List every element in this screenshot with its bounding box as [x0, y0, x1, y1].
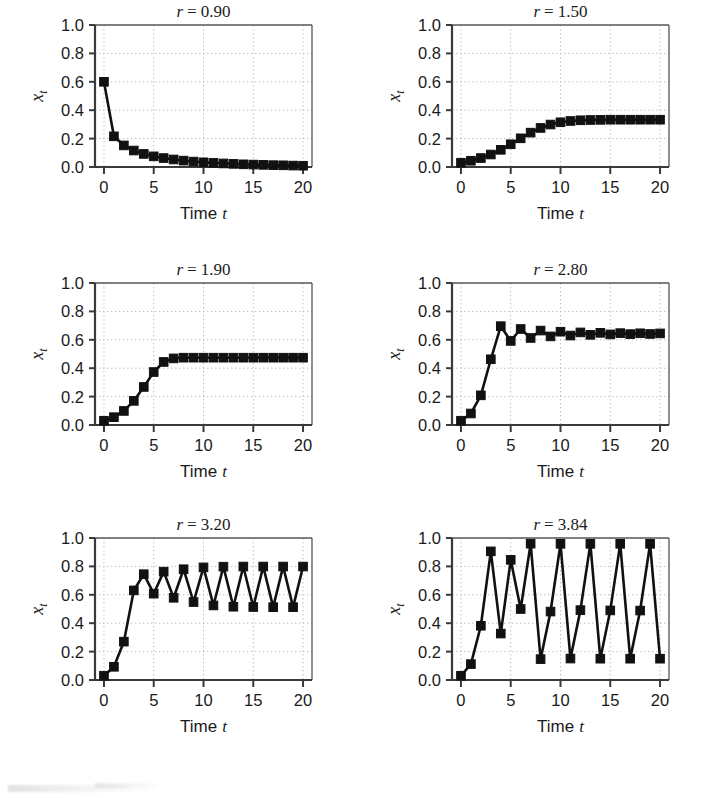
x-axis-label-text: Time: [537, 462, 574, 481]
data-point-marker: [457, 671, 466, 680]
chart-svg: r= 2.800.00.20.40.60.81.005101520Timetxt: [357, 258, 714, 513]
data-point-marker: [586, 116, 595, 125]
data-point-marker: [259, 562, 268, 571]
data-point-marker: [289, 353, 298, 362]
y-tick-label: 0.4: [418, 359, 441, 377]
x-axis-label: Timet: [537, 462, 585, 481]
x-tick-label: 0: [456, 436, 465, 454]
title-value: 3.20: [201, 515, 231, 534]
data-point-marker: [646, 540, 655, 549]
data-point-marker: [566, 331, 575, 340]
title-symbol: r: [533, 2, 540, 21]
data-point-marker: [636, 606, 645, 615]
data-point-marker: [159, 567, 168, 576]
y-axis-label-subscript: t: [36, 603, 50, 607]
y-axis-label-subscript: t: [393, 348, 407, 352]
panel-title: r= 1.50: [533, 2, 587, 21]
x-tick-label: 20: [651, 436, 669, 454]
title-equals: =: [187, 2, 201, 21]
chart-panel: r= 3.200.00.20.40.60.81.005101520Timetxt: [0, 513, 357, 798]
data-point-marker: [289, 161, 298, 170]
gridlines: [95, 538, 312, 680]
x-tick-label: 15: [601, 691, 619, 709]
data-point-marker: [467, 660, 476, 669]
data-point-marker: [239, 353, 248, 362]
x-tick-label: 10: [551, 178, 569, 196]
title-equals: =: [544, 2, 558, 21]
y-tick-label: 0.8: [418, 302, 441, 320]
y-tick-label: 0.8: [61, 44, 84, 62]
panel-title: r= 2.80: [533, 260, 587, 279]
y-tick-label: 1.0: [418, 16, 441, 34]
data-point-marker: [219, 353, 228, 362]
data-point-marker: [496, 146, 505, 155]
data-point-marker: [516, 605, 525, 614]
y-tick-label: 0.0: [418, 416, 441, 434]
chart-panel: r= 1.900.00.20.40.60.81.005101520Timetxt: [0, 258, 357, 513]
data-point-marker: [556, 327, 565, 336]
x-axis: 05101520: [99, 167, 312, 196]
data-point-marker: [199, 563, 208, 572]
data-point-marker: [467, 156, 476, 165]
data-point-marker: [139, 570, 148, 579]
chart-panel: r= 3.840.00.20.40.60.81.005101520Timetxt: [357, 513, 715, 798]
chart-svg: r= 0.900.00.20.40.60.81.005101520Timetxt: [0, 0, 357, 258]
x-tick-label: 15: [244, 178, 262, 196]
y-tick-label: 1.0: [61, 16, 84, 34]
data-point-marker: [269, 161, 278, 170]
data-point-marker: [506, 337, 515, 346]
panel-title: r= 1.90: [176, 260, 230, 279]
data-point-marker: [526, 128, 535, 137]
data-point-marker: [169, 593, 178, 602]
x-axis-label: Timet: [537, 717, 585, 736]
panel-title: r= 3.20: [176, 515, 230, 534]
data-point-marker: [249, 160, 258, 169]
x-tick-label: 0: [99, 691, 108, 709]
x-axis-label-variable: t: [579, 204, 585, 223]
title-symbol: r: [176, 515, 183, 534]
data-point-marker: [536, 326, 545, 335]
x-tick-label: 20: [294, 436, 312, 454]
title-symbol: r: [533, 515, 540, 534]
data-point-marker: [149, 589, 158, 598]
y-tick-label: 0.6: [418, 73, 441, 91]
data-point-marker: [506, 140, 515, 149]
x-tick-label: 5: [149, 178, 158, 196]
y-axis: 0.00.20.40.60.81.0: [61, 274, 95, 434]
data-point-marker: [169, 155, 178, 164]
y-axis-label-variable: x: [384, 94, 404, 103]
data-point-marker: [179, 565, 188, 574]
y-tick-label: 0.0: [61, 158, 84, 176]
data-point-marker: [229, 602, 238, 611]
x-tick-label: 10: [194, 691, 212, 709]
data-point-marker: [279, 161, 288, 170]
chart-svg: r= 1.500.00.20.40.60.81.005101520Timetxt: [357, 0, 714, 258]
data-point-marker: [189, 598, 198, 607]
data-point-marker: [139, 150, 148, 159]
x-axis: 05101520: [99, 680, 312, 709]
title-equals: =: [544, 260, 558, 279]
data-point-marker: [616, 115, 625, 124]
x-axis-label-text: Time: [180, 462, 217, 481]
y-tick-label: 0.2: [61, 130, 84, 148]
y-tick-label: 0.4: [61, 614, 84, 632]
data-point-marker: [239, 160, 248, 169]
data-point-marker: [576, 116, 585, 125]
y-tick-label: 0.8: [61, 557, 84, 575]
data-point-marker: [110, 413, 119, 422]
x-tick-label: 5: [506, 436, 515, 454]
y-tick-label: 0.6: [418, 586, 441, 604]
y-axis: 0.00.20.40.60.81.0: [61, 16, 95, 176]
x-tick-label: 5: [149, 691, 158, 709]
y-axis-label: xt: [384, 90, 407, 103]
x-axis-label: Timet: [180, 462, 228, 481]
data-point-marker: [626, 654, 635, 663]
x-axis-label-variable: t: [222, 204, 228, 223]
x-tick-label: 5: [149, 436, 158, 454]
x-tick-label: 20: [294, 691, 312, 709]
data-point-marker: [100, 671, 109, 680]
data-point-marker: [159, 358, 168, 367]
data-point-marker: [219, 562, 228, 571]
data-point-marker: [279, 562, 288, 571]
data-markers: [100, 78, 308, 171]
